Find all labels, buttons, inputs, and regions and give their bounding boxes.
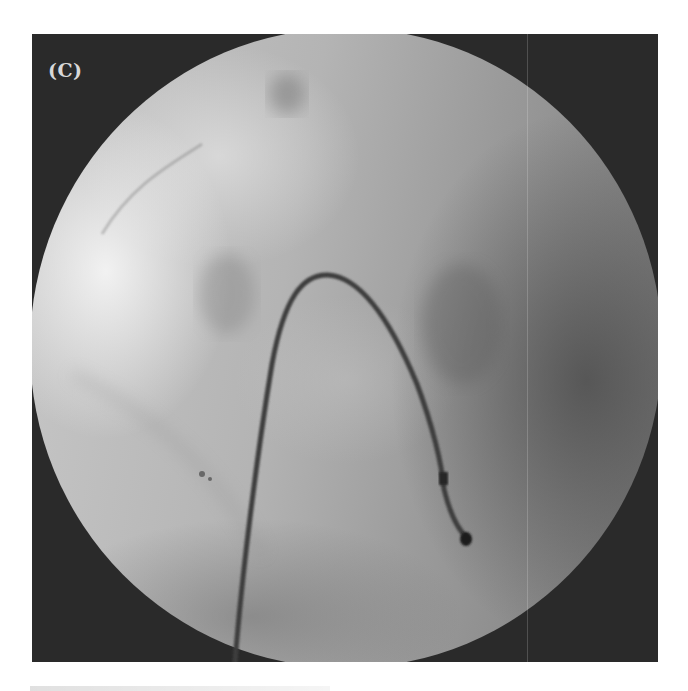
catheter-tip [460, 532, 472, 546]
anatomy-shadow [422, 264, 502, 384]
figure-frame [32, 34, 658, 662]
anatomy-shadow [199, 254, 255, 334]
marker-dot [208, 477, 212, 481]
catheter-electrode [439, 472, 448, 485]
anatomy-shadow [72, 374, 262, 554]
catheter-overlay [32, 34, 658, 662]
marker-dot [199, 471, 205, 477]
anatomy-shadow [269, 74, 305, 114]
vessel-line [102, 144, 202, 234]
scan-crease-line [527, 34, 528, 662]
caption-text-fragment [30, 686, 330, 691]
panel-label: (C) [48, 59, 83, 81]
